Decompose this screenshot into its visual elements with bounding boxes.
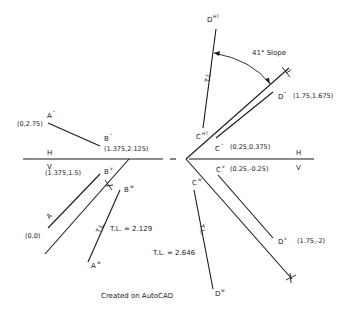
label-c-v: C bbox=[216, 166, 221, 174]
label-d-v: D bbox=[278, 238, 283, 246]
label-d-w: D bbox=[215, 290, 220, 298]
sup-b-w: w bbox=[130, 184, 134, 189]
footer-note: Created on AutoCAD bbox=[101, 292, 173, 300]
true-length-cd: T.L. = 2.646 bbox=[152, 249, 196, 257]
arrowhead-left bbox=[214, 51, 220, 56]
projector-line-cd-lower bbox=[186, 159, 292, 279]
coord-d-v: (1.75,-2) bbox=[297, 237, 325, 245]
label-c-h: C bbox=[215, 145, 220, 153]
sup-a-w: w bbox=[97, 260, 101, 265]
label-a-w: A bbox=[91, 262, 96, 270]
sup-b-v: v bbox=[110, 166, 113, 171]
label-d-h: D bbox=[278, 93, 283, 101]
sup-a-h: " bbox=[53, 110, 55, 115]
left-view: H V A " (0,2.75) B " (1.375,2.125) B v (… bbox=[17, 110, 163, 270]
label-c-ht: C bbox=[196, 133, 201, 141]
label-b-h: B bbox=[104, 135, 109, 143]
coord-d-h: (1.75,1.675) bbox=[293, 92, 333, 100]
label-c-w: C bbox=[192, 179, 197, 187]
arrowhead-right bbox=[265, 78, 270, 84]
fold-label-h-left: H bbox=[47, 149, 52, 157]
tl-mark-cd-lower: T.L. bbox=[197, 223, 207, 236]
coord-b-v: (1.375,1.5) bbox=[45, 169, 81, 177]
sup-b-h: " bbox=[110, 133, 112, 138]
tick-ab-2 bbox=[106, 185, 113, 186]
drawing-canvas: H V A " (0,2.75) B " (1.375,2.125) B v (… bbox=[0, 0, 353, 314]
line-ch-dh bbox=[216, 92, 273, 138]
true-length-ab: T.L. = 2.129 bbox=[109, 225, 152, 233]
fold-label-h-right: H bbox=[296, 149, 301, 157]
coord-c-v: (0.25,-0.25) bbox=[230, 165, 268, 173]
line-cw-dw bbox=[194, 190, 213, 289]
label-b-w: B bbox=[124, 186, 129, 194]
line-ah-bh bbox=[48, 123, 100, 146]
slope-arc bbox=[214, 53, 270, 84]
right-view: H V C " (0.25,0.375) D " (1.75,1.675) D … bbox=[152, 14, 333, 298]
label-d-ht: D bbox=[207, 16, 212, 24]
sup-d-h: " bbox=[284, 91, 286, 96]
slope-label: 41° Slope bbox=[252, 49, 286, 57]
coord-c-h: (0.25,0.375) bbox=[230, 143, 270, 151]
sup-c-v: v bbox=[222, 164, 225, 169]
label-a-v: A bbox=[45, 212, 54, 221]
sup-c-h: " bbox=[221, 143, 223, 148]
coord-a-v: (0,0) bbox=[25, 232, 40, 240]
tl-mark-ab: T.L. bbox=[94, 221, 106, 235]
sup-c-w: w bbox=[198, 177, 202, 182]
sup-d-ht: HT bbox=[213, 14, 219, 19]
line-cv-dv bbox=[218, 175, 273, 238]
sup-d-w: w bbox=[221, 288, 225, 293]
sup-d-v: v bbox=[284, 236, 287, 241]
label-a-h: A bbox=[47, 112, 52, 120]
sup-c-ht: HT bbox=[202, 131, 208, 136]
coord-a-h: (0,2.75) bbox=[17, 120, 43, 128]
tl-mark-cd-upper: T.L. bbox=[203, 71, 213, 84]
tick-cd-lower-2 bbox=[290, 273, 291, 283]
label-b-v: B bbox=[104, 168, 109, 176]
coord-b-h: (1.375,2.125) bbox=[104, 145, 148, 153]
fold-label-v-right: V bbox=[296, 164, 301, 172]
